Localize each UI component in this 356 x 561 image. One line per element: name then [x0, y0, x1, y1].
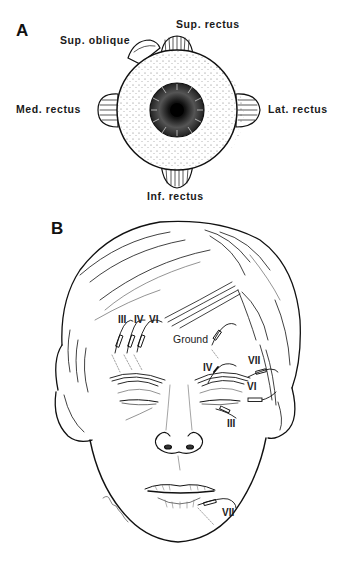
- hair-strands-light: [95, 255, 280, 320]
- electrode-right-vii: [248, 369, 278, 377]
- label-electrode-iii-right: III: [227, 418, 235, 429]
- label-electrode-vii-chin: VII: [222, 507, 234, 518]
- figure: A: [0, 0, 356, 561]
- label-electrode-iii-left: III: [118, 314, 126, 325]
- label-electrode-iv-left: IV: [134, 314, 143, 325]
- panel-b-face-drawing: [0, 0, 356, 561]
- eyebrows: [110, 372, 250, 386]
- electrode-right-iii: [216, 406, 236, 418]
- nose-bridge: [166, 385, 192, 470]
- nose: [155, 432, 202, 453]
- electrode-leads-left: [112, 355, 142, 372]
- hair-outline: [55, 221, 300, 441]
- eyes: [120, 400, 240, 405]
- label-electrode-vi-right: VI: [247, 381, 256, 392]
- electrode-ground: [212, 324, 236, 346]
- label-electrode-iv-right: IV: [203, 362, 212, 373]
- lip-shading: [155, 485, 205, 508]
- eye-creases: [118, 388, 242, 420]
- artist-signature: [103, 496, 128, 522]
- label-electrode-vi-left: VI: [149, 314, 158, 325]
- face-outline: [90, 438, 266, 542]
- label-ground: Ground: [173, 333, 208, 345]
- label-electrode-vii-upper: VII: [248, 355, 260, 366]
